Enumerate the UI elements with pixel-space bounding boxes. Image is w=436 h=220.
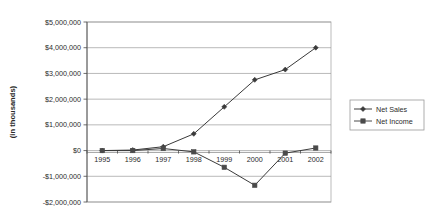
y-tick-label: $1,000,000 [45,120,81,129]
y-tick-label: $0 [73,146,81,155]
square-marker-icon [253,183,257,187]
x-tick-label: 1998 [186,155,202,164]
y-tick-label: $3,000,000 [45,69,81,78]
square-marker-icon [283,151,287,155]
chart-legend: Net SalesNet Income [350,100,424,130]
x-tick-label: 1999 [216,155,232,164]
square-marker-icon [161,146,165,150]
square-marker-icon [131,148,135,152]
line-chart: $5,000,000$4,000,000$3,000,000$2,000,000… [0,0,436,220]
y-tick-label: $5,000,000 [45,18,81,27]
y-tick-label: -$2,000,000 [43,198,81,207]
y-tick-label: $4,000,000 [45,43,81,52]
x-tick-label: 1997 [155,155,171,164]
x-tick-label: 2002 [308,155,324,164]
chart-container: $5,000,000$4,000,000$3,000,000$2,000,000… [0,0,436,220]
square-marker-icon [361,119,365,123]
legend-label: Net Income [376,117,413,126]
square-marker-icon [192,150,196,154]
square-marker-icon [314,146,318,150]
y-axis-title: (in thousands) [8,85,17,138]
legend-label: Net Sales [376,105,408,114]
x-tick-label: 2000 [247,155,263,164]
x-tick-label: 1995 [94,155,110,164]
square-marker-icon [100,148,104,152]
square-marker-icon [222,165,226,169]
x-tick-label: 1996 [125,155,141,164]
y-tick-label: $2,000,000 [45,95,81,104]
y-tick-label: -$1,000,000 [43,172,81,181]
